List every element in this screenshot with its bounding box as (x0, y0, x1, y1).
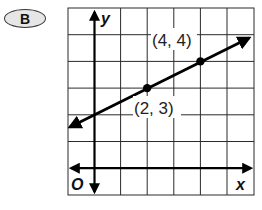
point-label-2-3: (2, 3) (134, 99, 174, 118)
point-2-3 (143, 84, 151, 92)
x-axis-label: x (235, 176, 246, 193)
y-axis-label: y (100, 10, 111, 27)
point-4-4 (196, 57, 204, 65)
origin-label: O (71, 176, 84, 193)
coordinate-graph: (4, 4) (2, 3) y x O (0, 0, 262, 210)
point-label-4-4: (4, 4) (152, 31, 192, 50)
